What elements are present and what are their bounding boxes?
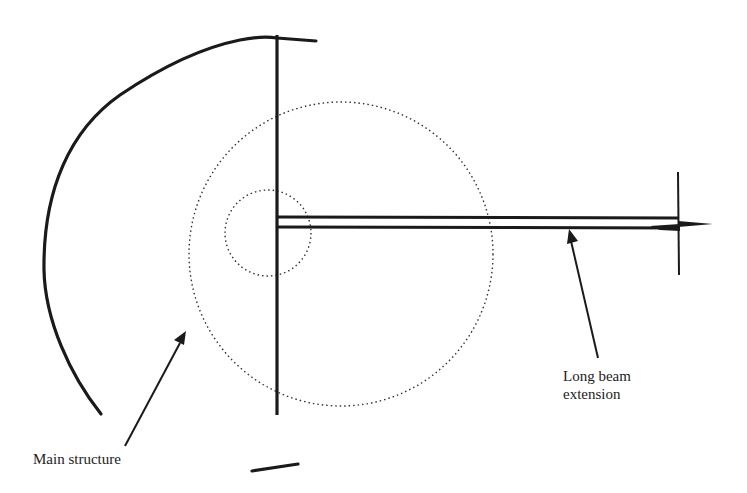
long-beam-arrowhead — [567, 229, 578, 244]
beam-end-wedge — [650, 224, 680, 231]
large-dotted-circle — [189, 102, 493, 406]
long-beam-label-line2: extension — [563, 385, 631, 403]
long-beam-arrow-shaft — [571, 241, 598, 358]
main-structure-arc — [44, 37, 316, 414]
beam-end-tip — [678, 221, 713, 227]
long-beam-label: Long beam extension — [563, 367, 631, 403]
bottom-segment — [252, 464, 298, 471]
diagram-canvas — [0, 0, 747, 493]
beam-top-line — [277, 217, 678, 218]
small-dotted-circle — [225, 190, 311, 276]
long-beam-label-line1: Long beam — [563, 367, 631, 385]
main-structure-arrowhead — [174, 331, 186, 345]
main-structure-arrow-shaft — [125, 343, 180, 446]
main-structure-label: Main structure — [33, 450, 121, 468]
beam-bottom-line — [277, 227, 678, 228]
